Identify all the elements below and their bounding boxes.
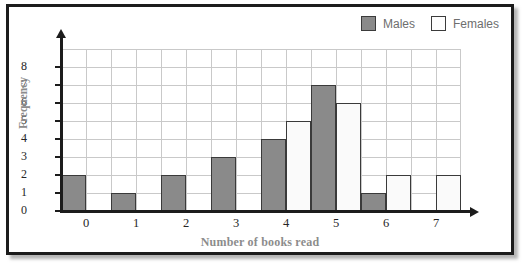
y-axis-line — [60, 37, 63, 213]
x-axis-arrow-icon — [470, 207, 479, 217]
y-tick-2 — [55, 174, 61, 176]
bar-males-5 — [311, 85, 336, 211]
x-tick-label-4: 4 — [276, 216, 296, 231]
legend-label-males: Males — [383, 17, 415, 31]
y-tick-8 — [55, 66, 61, 68]
y-tick-0 — [55, 210, 61, 212]
y-tick-6 — [55, 102, 61, 104]
bar-females-5 — [336, 103, 361, 211]
bar-males-6 — [361, 193, 386, 211]
bar-males-1 — [111, 193, 136, 211]
y-tick-label-1: 1 — [13, 186, 27, 198]
x-tick-label-3: 3 — [226, 216, 246, 231]
y-tick-7 — [55, 84, 61, 86]
y-tick-label-8: 8 — [13, 60, 27, 72]
legend-label-females: Females — [453, 17, 499, 31]
bar-females-4 — [286, 121, 311, 211]
y-tick-1 — [55, 192, 61, 194]
chart-legend: Males Females — [361, 16, 499, 31]
y-tick-label-0: 0 — [13, 204, 27, 216]
y-tick-4 — [55, 138, 61, 140]
bar-males-3 — [211, 157, 236, 211]
y-tick-label-3: 3 — [13, 150, 27, 162]
x-tick-label-2: 2 — [176, 216, 196, 231]
legend-item-males: Males — [361, 16, 415, 31]
x-tick-label-5: 5 — [326, 216, 346, 231]
bar-males-0 — [61, 175, 86, 211]
x-axis-title: Number of books read — [9, 235, 511, 250]
y-tick-label-4: 4 — [13, 132, 27, 144]
x-tick-label-1: 1 — [126, 216, 146, 231]
y-tick-label-2: 2 — [13, 168, 27, 180]
legend-swatch-females-icon — [431, 16, 446, 31]
x-axis-line — [61, 210, 471, 213]
y-axis-arrow-icon — [56, 29, 66, 38]
bar-females-7 — [436, 175, 461, 211]
bar-males-4 — [261, 139, 286, 211]
x-tick-label-0: 0 — [76, 216, 96, 231]
legend-item-females: Females — [431, 16, 499, 31]
chart-figure: Males Females 012345678 01234567 Number … — [6, 4, 514, 255]
bar-females-6 — [386, 175, 411, 211]
x-tick-label-6: 6 — [376, 216, 396, 231]
y-axis-title: Frequency — [17, 77, 29, 129]
plot-area — [61, 49, 461, 211]
legend-swatch-males-icon — [361, 16, 376, 31]
bar-males-2 — [161, 175, 186, 211]
x-tick-label-7: 7 — [426, 216, 446, 231]
y-tick-5 — [55, 120, 61, 122]
y-tick-3 — [55, 156, 61, 158]
